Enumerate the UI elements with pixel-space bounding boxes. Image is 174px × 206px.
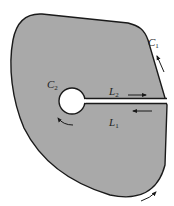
shaded-region	[11, 14, 167, 197]
slit-channel	[82, 99, 168, 104]
outer-contour-arrow-right	[157, 56, 164, 72]
inner-hole	[59, 88, 85, 114]
label-C1: C1	[148, 36, 159, 50]
contour-diagram: C1 C2 L2 L1	[0, 0, 174, 206]
